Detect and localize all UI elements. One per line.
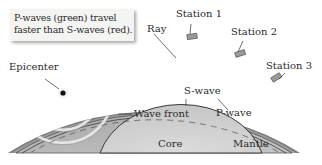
label-station-2: Station 2 xyxy=(231,27,277,37)
label-epicenter: Epicenter xyxy=(9,62,59,72)
label-wave-front: Wave front xyxy=(134,109,189,119)
callout-line-1: P-waves (green) travel xyxy=(14,12,130,24)
label-s-wave: S-wave xyxy=(184,86,221,96)
label-mantle: Mantle xyxy=(233,139,269,149)
stations xyxy=(187,33,282,82)
callout-line-2: faster than S-waves (red). xyxy=(14,24,130,36)
callout-box: P-waves (green) travel faster than S-wav… xyxy=(10,9,134,41)
label-p-wave: P-wave xyxy=(216,108,252,118)
label-ray: Ray xyxy=(147,24,166,34)
label-core: Core xyxy=(158,139,182,149)
rays xyxy=(64,44,280,102)
seismic-wave-diagram: P-waves (green) travel faster than S-wav… xyxy=(0,0,322,165)
label-station-3: Station 3 xyxy=(266,61,312,71)
label-station-1: Station 1 xyxy=(176,9,222,19)
